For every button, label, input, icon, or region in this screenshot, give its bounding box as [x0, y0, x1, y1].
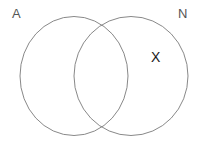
venn-circles-svg	[0, 0, 201, 144]
element-x-mark: X	[151, 50, 160, 64]
set-label-n: N	[178, 7, 188, 20]
diagram-background	[0, 0, 201, 144]
set-label-a: A	[12, 7, 21, 20]
venn-diagram: A N X	[0, 0, 201, 144]
